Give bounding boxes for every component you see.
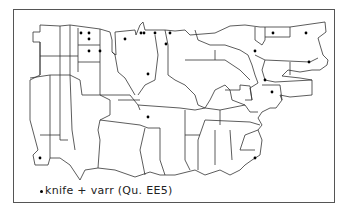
legend-label: knife + varr (Qu. EE5) <box>45 184 173 197</box>
map-legend: knife + varr (Qu. EE5) <box>40 184 173 197</box>
dot-symbol-icon <box>40 190 43 193</box>
region-outlines <box>30 22 328 180</box>
data-points <box>39 32 311 160</box>
